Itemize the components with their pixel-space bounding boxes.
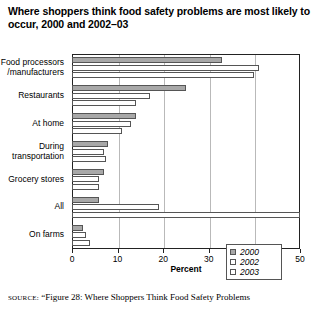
legend-swatch-icon [230,259,236,265]
bar-2002 [72,204,159,210]
bar-2000 [72,197,99,203]
bar-2003 [72,100,136,106]
bar-2000 [72,113,136,119]
bar-2003 [72,240,90,246]
source-label: SOURCE: [8,294,39,302]
legend-item: 2000 [230,247,278,257]
bar-2003 [72,212,300,218]
chart-page: Where shoppers think food safety problem… [0,0,320,309]
bar-group [72,141,300,162]
bar-2000 [72,169,104,175]
source-note: SOURCE: “Figure 28: Where Shoppers Think… [8,292,314,302]
category-label: Food processors/manufacturers [0,58,64,77]
category-label: Duringtransportation [0,142,64,161]
legend-label: 2002 [240,257,259,267]
bar-2003 [72,72,254,78]
bar-2000 [72,85,186,91]
chart-legend: 200020022003 [226,244,282,280]
category-label-line: Restaurants [0,91,64,101]
bar-group [72,113,300,134]
bar-group [72,57,300,78]
category-label-line: transportation [0,152,64,162]
x-tick [118,249,119,253]
bar-2002 [72,149,104,155]
bar-2002 [72,65,259,71]
bar-group [72,85,300,106]
x-tick [163,249,164,253]
bar-2003 [72,184,99,190]
category-label: At home [0,119,64,129]
bar-2000 [72,57,222,63]
bar-group [72,197,300,218]
x-tick [300,249,301,253]
legend-label: 2003 [240,267,259,277]
bar-2003 [72,156,106,162]
category-label: Grocery stores [0,175,64,185]
bar-2002 [72,93,150,99]
x-tick [72,249,73,253]
category-label-line: Grocery stores [0,175,64,185]
legend-swatch-icon [230,269,236,275]
x-tick-label: 50 [288,254,312,264]
x-tick-label: 10 [106,254,130,264]
category-label-line: All [0,202,64,212]
bar-2002 [72,176,99,182]
bar-groups [72,54,300,249]
category-axis: Food processors/manufacturersRestaurants… [0,54,68,249]
x-tick [209,249,210,253]
x-tick-label: 20 [151,254,175,264]
source-text: “Figure 28: Where Shoppers Think Food Sa… [41,292,250,302]
x-tick-label: 30 [197,254,221,264]
legend-item: 2003 [230,267,278,277]
bar-group [72,225,300,246]
bar-2002 [72,121,131,127]
bar-2002 [72,232,86,238]
bar-2000 [72,225,83,231]
x-tick-label: 0 [60,254,84,264]
category-label-line: On farms [0,230,64,240]
category-label: All [0,202,64,212]
bar-2000 [72,141,108,147]
category-label: On farms [0,230,64,240]
page-title: Where shoppers think food safety problem… [8,5,312,31]
category-label-line: /manufacturers [0,68,64,78]
category-label-line: At home [0,119,64,129]
legend-swatch-icon [230,249,236,255]
category-label: Restaurants [0,91,64,101]
bar-chart: Food processors/manufacturersRestaurants… [0,48,320,273]
bar-group [72,169,300,190]
legend-label: 2000 [240,247,259,257]
legend-item: 2002 [230,257,278,267]
bar-2003 [72,128,122,134]
